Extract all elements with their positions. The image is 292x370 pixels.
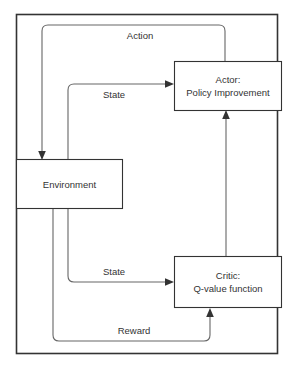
action-edge-label: Action: [127, 30, 153, 41]
action-arrow-head: [38, 151, 46, 160]
critic-to-actor-arrow-head: [222, 110, 230, 119]
state-to-actor-edge-label: State: [103, 89, 125, 100]
critic-to-actor-edge: [222, 110, 230, 256]
node-critic[interactable]: Critic: Q-value function: [175, 257, 282, 308]
reward-arrow-head: [206, 308, 214, 317]
state-to-critic-edge-label: State: [103, 266, 125, 277]
critic-label-line2: Q-value function: [193, 283, 262, 294]
actor-label-line1: Actor:: [216, 74, 241, 85]
diagram-canvas: Environment Actor: Policy Improvement Cr…: [0, 0, 292, 370]
node-environment[interactable]: Environment: [17, 160, 123, 209]
reward-edge-label: Reward: [118, 325, 151, 336]
environment-label: Environment: [43, 179, 97, 190]
actor-label-line2: Policy Improvement: [186, 87, 270, 98]
node-actor[interactable]: Actor: Policy Improvement: [175, 62, 282, 111]
actor-critic-diagram: Environment Actor: Policy Improvement Cr…: [0, 0, 292, 370]
state-to-actor-arrow-head: [165, 80, 174, 88]
state-to-critic-arrow-head: [165, 278, 174, 286]
critic-label-line1: Critic:: [216, 270, 240, 281]
